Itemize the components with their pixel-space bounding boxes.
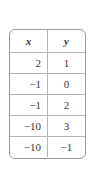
cell-y: 0	[48, 74, 85, 94]
header-y: y	[48, 30, 85, 52]
cell-x: −10	[10, 116, 48, 136]
header-x: x	[10, 30, 48, 52]
cell-y: 2	[48, 95, 85, 115]
table-header-row: x y	[10, 30, 85, 52]
table-row: −10 3	[10, 115, 85, 136]
cell-y: 1	[48, 53, 85, 73]
cell-x: −1	[10, 95, 48, 115]
cell-x: −10	[10, 137, 48, 157]
table-row: −10 −1	[10, 136, 85, 157]
cell-y: −1	[48, 137, 85, 157]
table-row: −1 2	[10, 94, 85, 115]
cell-x: 2	[10, 53, 48, 73]
table-row: 2 1	[10, 52, 85, 73]
xy-table: x y 2 1 −1 0 −1 2 −10 3 −10 −1	[9, 29, 86, 159]
cell-x: −1	[10, 74, 48, 94]
cell-y: 3	[48, 116, 85, 136]
table-row: −1 0	[10, 73, 85, 94]
